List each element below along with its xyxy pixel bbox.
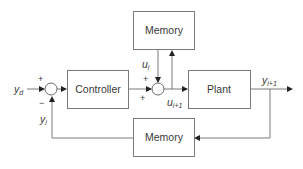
arrowhead-plant-in — [182, 86, 188, 92]
arrowhead-memtop-in — [169, 50, 175, 56]
signal-yd-label: yd — [13, 83, 24, 96]
controller-label: Controller — [75, 83, 121, 95]
controller-block: Controller — [68, 71, 129, 109]
memory-bottom-label: Memory — [145, 131, 184, 143]
sign-error-minus: − — [39, 98, 44, 108]
memory-bottom-block: Memory — [134, 119, 195, 157]
signal-ui-label: ui — [142, 58, 150, 71]
sign-update-plus-top: + — [143, 74, 148, 84]
arrowhead-controller-in — [61, 86, 67, 92]
sign-update-plus-left: + — [140, 93, 145, 103]
arrowhead-sum2-top — [155, 77, 161, 83]
signal-yi1-label: yi+1 — [261, 74, 277, 87]
signal-ui1-label: ui+1 — [167, 96, 182, 109]
summing-junction-update — [152, 83, 164, 95]
arrowhead-sum1-bottom — [49, 96, 55, 102]
summing-junction-error — [45, 83, 57, 95]
memory-top-block: Memory — [134, 12, 195, 50]
arrowhead-output — [287, 86, 293, 92]
arrowhead-sum1-in — [39, 86, 45, 92]
memory-top-label: Memory — [145, 24, 184, 36]
block-diagram: Controller Plant Memory Memory yd yi ui … — [0, 0, 303, 169]
plant-label: Plant — [207, 83, 231, 95]
arrowhead-sum2-in — [146, 86, 152, 92]
plant-block: Plant — [189, 71, 251, 109]
sign-error-plus: + — [38, 74, 43, 84]
signal-yi-label: yi — [39, 113, 47, 126]
